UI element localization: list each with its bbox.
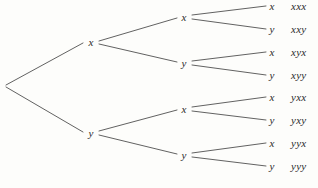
edge-group	[6, 6, 266, 166]
tree-node-yy: y	[182, 150, 187, 161]
outcome-xyy: xyy	[291, 70, 307, 81]
tree-edge-yy-yyx	[192, 143, 266, 153]
outcome-xyx: xyx	[291, 47, 307, 58]
tree-node-yx: x	[182, 104, 187, 115]
tree-node-xy: y	[182, 58, 187, 69]
tree-edge-x-xy	[99, 44, 177, 62]
outcome-yyx: yyx	[291, 138, 307, 149]
tree-node-y: y	[89, 128, 94, 139]
tree-edge-xx-xxy	[192, 19, 266, 29]
tree-node-yxx: x	[270, 92, 275, 103]
outcome-xxx: xxx	[291, 1, 307, 12]
outcome-yxy: yxy	[291, 115, 307, 126]
tree-edge-xx-xxx	[192, 6, 266, 15]
tree-node-xxy: y	[270, 24, 275, 35]
tree-edge-y-yy	[99, 135, 177, 154]
tree-node-xyx: x	[270, 47, 275, 58]
outcome-yxx: yxx	[291, 92, 307, 103]
tree-edge-x-xx	[99, 18, 177, 41]
tree-node-xxx: x	[270, 1, 275, 12]
tree-edge-yy-yyy	[192, 157, 266, 166]
tree-node-yxy: y	[270, 115, 275, 126]
tree-edge-root-x	[6, 43, 83, 85]
tree-node-xx: x	[182, 12, 187, 23]
outcome-yyy: yyy	[291, 161, 307, 172]
tree-node-yyx: x	[270, 138, 275, 149]
outcome-xxy: xxy	[291, 24, 307, 35]
tree-edge-xy-xyy	[192, 65, 266, 75]
tree-edge-xy-xyx	[192, 52, 266, 61]
tree-edge-root-y	[6, 87, 83, 132]
tree-edge-y-yx	[99, 110, 177, 131]
probability-tree-diagram: xyxyxyxyxyxyxy xxxxxyxyxxyyyxxyxyyyxyyy	[0, 0, 318, 188]
tree-edge-yx-yxy	[192, 111, 266, 120]
tree-node-yyy: y	[270, 161, 275, 172]
tree-edge-yx-yxx	[192, 97, 266, 107]
tree-node-x: x	[89, 37, 94, 48]
tree-node-xyy: y	[270, 70, 275, 81]
